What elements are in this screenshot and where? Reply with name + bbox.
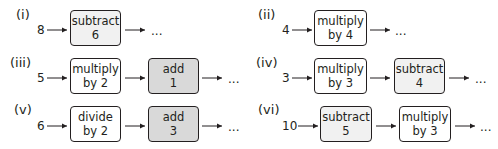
operation-operand: by 2 <box>83 76 108 90</box>
operation-text: multiply <box>402 110 449 124</box>
operation-operand: by 2 <box>83 124 108 138</box>
operation-box-multiply: multiply by 4 <box>314 10 367 46</box>
problem-label: (i) <box>16 8 30 22</box>
arrow-right-icon <box>202 73 226 83</box>
operation-operand: 1 <box>170 76 177 90</box>
problem-label: (iii) <box>10 56 31 70</box>
operation-operand: by 3 <box>328 76 353 90</box>
operation-box-multiply: multiply by 3 <box>399 106 451 142</box>
arrow-right-icon <box>202 121 226 131</box>
arrow-right-icon <box>125 25 149 35</box>
operation-text: add <box>163 62 185 76</box>
arrow-right-icon <box>449 73 473 83</box>
input-value: 5 <box>37 71 45 85</box>
arrow-right-icon <box>370 73 394 83</box>
problem-label: (ii) <box>258 8 275 22</box>
operation-operand: 3 <box>170 124 177 138</box>
operation-text: add <box>163 110 185 124</box>
input-value: 3 <box>282 71 290 85</box>
operation-text: subtract <box>72 14 120 28</box>
arrow-right-icon <box>455 121 479 131</box>
operation-operand: by 4 <box>328 28 353 42</box>
operation-box-subtract: subtract 4 <box>394 58 445 94</box>
operation-box-add: add 3 <box>148 106 199 142</box>
continuation-ellipsis: ... <box>475 73 486 85</box>
arrow-right-icon <box>298 121 322 131</box>
operation-box-divide: divide by 2 <box>70 106 121 142</box>
arrow-right-icon <box>47 73 71 83</box>
continuation-ellipsis: ... <box>228 73 239 85</box>
arrow-right-icon <box>47 25 71 35</box>
continuation-ellipsis: ... <box>480 121 491 133</box>
operation-operand: by 3 <box>412 124 437 138</box>
operation-text: multiply <box>317 14 364 28</box>
continuation-ellipsis: ... <box>395 25 406 37</box>
continuation-ellipsis: ... <box>151 25 162 37</box>
operation-box-subtract: subtract 6 <box>70 10 121 46</box>
operation-box-add: add 1 <box>148 58 199 94</box>
operation-box-subtract: subtract 5 <box>320 106 372 142</box>
input-value: 8 <box>37 23 45 37</box>
operation-text: multiply <box>317 62 364 76</box>
operation-operand: 5 <box>342 124 349 138</box>
operation-operand: 6 <box>92 28 99 42</box>
input-value: 10 <box>282 119 297 133</box>
arrow-right-icon <box>376 121 400 131</box>
arrow-right-icon <box>370 25 394 35</box>
arrow-right-icon <box>292 25 316 35</box>
arrow-right-icon <box>125 73 149 83</box>
arrow-right-icon <box>47 121 71 131</box>
operation-text: multiply <box>72 62 119 76</box>
continuation-ellipsis: ... <box>228 121 239 133</box>
operation-text: subtract <box>396 62 444 76</box>
operation-box-multiply: multiply by 2 <box>70 58 121 94</box>
operation-text: subtract <box>322 110 370 124</box>
operation-operand: 4 <box>416 76 423 90</box>
arrow-right-icon <box>292 73 316 83</box>
problem-label: (iv) <box>256 56 277 70</box>
input-value: 4 <box>282 23 290 37</box>
operation-text: divide <box>78 110 113 124</box>
problem-label: (v) <box>14 103 32 117</box>
arrow-right-icon <box>125 121 149 131</box>
problem-label: (vi) <box>258 103 279 117</box>
operation-box-multiply: multiply by 3 <box>314 58 367 94</box>
input-value: 6 <box>37 119 45 133</box>
